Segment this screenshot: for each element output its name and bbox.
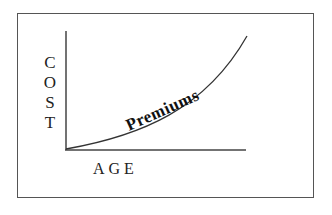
x-axis-label: AGE <box>93 160 138 177</box>
y-label-letter: O <box>44 73 56 92</box>
y-axis-label: C O S T <box>44 53 56 132</box>
y-label-letter: C <box>44 53 55 72</box>
y-label-letter: S <box>45 93 54 112</box>
premiums-label: Premiums <box>123 85 202 134</box>
cost-age-diagram: C O S T AGE Premiums <box>0 0 332 215</box>
y-label-letter: T <box>45 113 56 132</box>
premiums-curve <box>66 36 247 149</box>
